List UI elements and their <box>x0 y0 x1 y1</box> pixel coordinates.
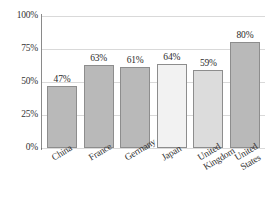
bar-value-label: 59% <box>187 58 229 68</box>
y-tick-label: 75% <box>2 44 38 54</box>
y-tick-label: 0% <box>2 143 38 153</box>
bar-chart-figure: 0%25%50%75%100% 47%63%61%64%59%80% China… <box>0 0 271 203</box>
y-tick-label: 50% <box>2 77 38 87</box>
y-tick-label: 100% <box>2 11 38 21</box>
bar-series: 47%63%61%64%59%80% <box>42 16 265 148</box>
x-axis-category-labels: ChinaFranceGermanyJapanUnited KingdomUni… <box>42 150 265 203</box>
bar-value-label: 80% <box>224 30 266 40</box>
y-tick-label: 25% <box>2 110 38 120</box>
bar-slot: 47% <box>47 16 77 148</box>
bar-value-label: 47% <box>41 74 83 84</box>
bar-china[interactable] <box>47 86 77 148</box>
y-axis-tick-labels: 0%25%50%75%100% <box>0 0 38 203</box>
